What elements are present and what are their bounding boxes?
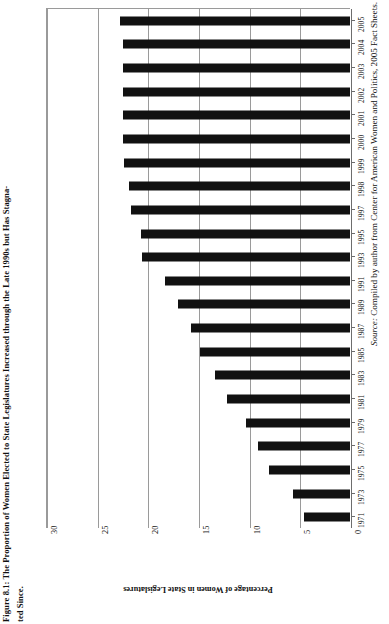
figure-title-line-1: Figure 8.1: The Proportion of Women Elec… xyxy=(1,186,11,622)
tick-1983 xyxy=(351,374,355,375)
bar-1981 xyxy=(227,394,350,403)
tick-1985 xyxy=(351,351,355,352)
bar-1991 xyxy=(165,276,350,285)
bar-1998 xyxy=(129,182,350,191)
bar-row xyxy=(47,364,350,388)
bar-row xyxy=(47,458,350,482)
figure-page: Figure 8.1: The Proportion of Women Elec… xyxy=(0,0,389,624)
tick-1999 xyxy=(351,162,355,163)
tick-2001 xyxy=(351,114,355,115)
tick-2000 xyxy=(351,138,355,139)
bar-chart: 2005200420032002200120001999199819971995… xyxy=(34,0,362,624)
tick-2002 xyxy=(351,91,355,92)
tick-2003 xyxy=(351,67,355,68)
bar-1999 xyxy=(124,158,350,167)
tick-1981 xyxy=(351,398,355,399)
gridline-0 xyxy=(351,9,352,528)
bar-1975 xyxy=(269,465,350,474)
bar-1995 xyxy=(141,229,350,238)
plot-area xyxy=(46,8,350,528)
bar-1977 xyxy=(258,442,350,451)
bar-2001 xyxy=(123,111,350,120)
bar-1983 xyxy=(215,371,350,380)
tick-1987 xyxy=(351,327,355,328)
bar-row xyxy=(47,505,350,529)
value-axis-title-text: Percentage of Women in State Legislature… xyxy=(123,585,272,594)
bar-1993 xyxy=(142,253,350,262)
bars-group xyxy=(47,9,350,528)
tick-2005 xyxy=(351,20,355,21)
bar-1985 xyxy=(200,347,350,356)
source-label: Source: xyxy=(369,318,379,346)
tick-1991 xyxy=(351,280,355,281)
tick-1995 xyxy=(351,233,355,234)
bar-row xyxy=(47,56,350,80)
tick-1989 xyxy=(351,303,355,304)
bar-row xyxy=(47,293,350,317)
bar-row xyxy=(47,411,350,435)
bar-2003 xyxy=(123,64,350,73)
bar-2005 xyxy=(120,16,350,25)
tick-1979 xyxy=(351,422,355,423)
bar-row xyxy=(47,80,350,104)
bar-2002 xyxy=(123,87,350,96)
bar-row xyxy=(47,104,350,128)
bar-2004 xyxy=(123,40,350,49)
bar-row xyxy=(47,434,350,458)
bar-1971 xyxy=(304,513,350,522)
tick-1975 xyxy=(351,469,355,470)
bar-row xyxy=(47,340,350,364)
bar-row xyxy=(47,9,350,33)
bar-row xyxy=(47,245,350,269)
bar-row xyxy=(47,316,350,340)
bar-1997 xyxy=(131,205,350,214)
bar-1973 xyxy=(293,489,350,498)
bar-row xyxy=(47,482,350,506)
figure-source: Source: Compiled by author from Center f… xyxy=(362,0,389,624)
source-text: Compiled by author from Center for Ameri… xyxy=(369,2,379,318)
value-axis-title: Percentage of Women in State Legislature… xyxy=(46,528,350,608)
bar-row xyxy=(47,127,350,151)
bar-row xyxy=(47,151,350,175)
tick-1973 xyxy=(351,493,355,494)
bar-row xyxy=(47,33,350,57)
bar-row xyxy=(47,174,350,198)
tick-1971 xyxy=(351,516,355,517)
bar-1989 xyxy=(178,300,350,309)
figure-title-line-2: ted Since. xyxy=(15,586,25,622)
tick-1997 xyxy=(351,209,355,210)
tick-1977 xyxy=(351,445,355,446)
tick-2004 xyxy=(351,43,355,44)
bar-row xyxy=(47,222,350,246)
bar-1987 xyxy=(191,324,350,333)
bar-row xyxy=(47,387,350,411)
bar-2000 xyxy=(123,134,350,143)
bar-row xyxy=(47,198,350,222)
bar-row xyxy=(47,269,350,293)
tick-1993 xyxy=(351,256,355,257)
bar-1979 xyxy=(246,418,350,427)
tick-1998 xyxy=(351,185,355,186)
